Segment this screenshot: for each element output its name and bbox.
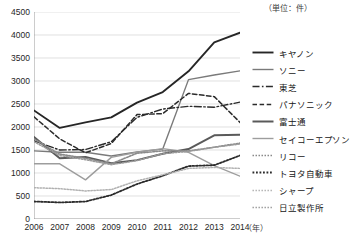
series-line xyxy=(34,167,240,190)
series-line xyxy=(34,33,240,128)
legend-item-2[interactable]: ソニー xyxy=(252,61,354,78)
legend-item-6[interactable]: セイコーエプソン xyxy=(252,130,354,147)
unit-annotation: （単位：件） xyxy=(264,2,312,13)
legend-swatch-icon xyxy=(252,82,274,91)
legend-label: リコー xyxy=(279,150,306,162)
y-tick-label: 2000 xyxy=(0,122,30,132)
y-tick-label: 4500 xyxy=(0,7,30,17)
legend-item-5[interactable]: 富士通 xyxy=(252,113,354,130)
legend-swatch-icon xyxy=(252,186,274,195)
legend-swatch-icon xyxy=(252,168,274,177)
legend-swatch-icon xyxy=(252,203,274,212)
line-chart: （単位：件） 050010001500200025003000350040004… xyxy=(0,0,354,249)
legend-label: キヤノン xyxy=(279,47,314,59)
legend-label: ソニー xyxy=(279,64,306,76)
legend-item-3[interactable]: 東芝 xyxy=(252,78,354,95)
legend-item-9[interactable]: シャープ xyxy=(252,182,354,199)
legend-label: トヨタ自動車 xyxy=(279,167,332,179)
y-tick-label: 3000 xyxy=(0,76,30,86)
series-line xyxy=(34,71,240,156)
legend-swatch-icon xyxy=(252,48,274,57)
legend-item-7[interactable]: リコー xyxy=(252,147,354,164)
legend-item-8[interactable]: トヨタ自動車 xyxy=(252,164,354,181)
legend-label: 東芝 xyxy=(279,81,297,93)
y-tick-label: 500 xyxy=(0,191,30,201)
legend-label: パナソニック xyxy=(279,98,332,110)
legend-item-4[interactable]: パナソニック xyxy=(252,96,354,113)
x-axis-unit-label: （年） xyxy=(244,222,268,233)
y-tick-label: 3500 xyxy=(0,53,30,63)
legend-label: 日立製作所 xyxy=(279,201,324,213)
legend-label: セイコーエプソン xyxy=(279,133,350,145)
plot-svg xyxy=(34,12,240,219)
legend-swatch-icon xyxy=(252,117,274,126)
legend-swatch-icon xyxy=(252,65,274,74)
plot-area xyxy=(34,12,240,219)
legend-label: シャープ xyxy=(279,184,314,196)
legend-item-10[interactable]: 日立製作所 xyxy=(252,199,354,216)
y-tick-label: 1500 xyxy=(0,145,30,155)
legend-swatch-icon xyxy=(252,151,274,160)
series-line xyxy=(34,135,240,164)
y-tick-label: 4000 xyxy=(0,30,30,40)
legend-label: 富士通 xyxy=(279,115,306,127)
y-tick-label: 2500 xyxy=(0,99,30,109)
y-tick-label: 1000 xyxy=(0,168,30,178)
legend-swatch-icon xyxy=(252,134,274,143)
legend: キヤノンソニー東芝パナソニック富士通セイコーエプソンリコートヨタ自動車シャープ日… xyxy=(252,44,354,216)
legend-item-1[interactable]: キヤノン xyxy=(252,44,354,61)
legend-swatch-icon xyxy=(252,100,274,109)
